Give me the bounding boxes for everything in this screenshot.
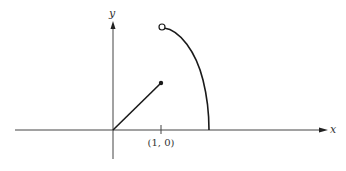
x-axis-arrow-icon xyxy=(319,128,328,133)
tick-label: (1, 0) xyxy=(148,137,175,148)
filled-point xyxy=(159,81,163,85)
y-axis-arrow-icon xyxy=(111,21,116,29)
segment-line xyxy=(113,83,161,130)
diagram-canvas: x y (1, 0) xyxy=(0,0,346,171)
y-axis-label: y xyxy=(108,7,116,20)
x-axis-label: x xyxy=(330,123,337,136)
open-point xyxy=(159,24,165,30)
curve-path xyxy=(164,28,209,130)
